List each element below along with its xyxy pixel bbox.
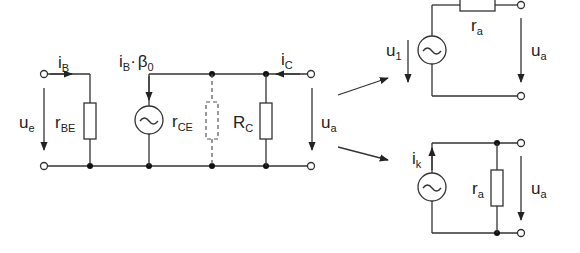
resistor-rce-dashed [206, 102, 218, 139]
voltage-source-equivalent: u1 ra ua [386, 0, 547, 100]
label-ra-top: ra [471, 16, 484, 37]
label-current-source: iB·β0 [119, 52, 154, 73]
resistor-rbe [84, 103, 96, 139]
current-source-equivalent: ik ra ua [412, 140, 547, 237]
output-terminal-bottom [308, 163, 315, 170]
label-ue: ue [19, 113, 35, 134]
label-ik: ik [412, 149, 422, 170]
label-rbe: rBE [55, 113, 75, 134]
label-ic: iC [281, 50, 293, 71]
resistor-ra-series [460, 0, 495, 11]
arrow-to-voltage-equivalent [338, 78, 388, 95]
label-ra-bottom: ra [472, 179, 485, 200]
main-circuit: iB ue rBE iB·β0 rCE RC iC ua [19, 50, 337, 170]
resistor-rc [260, 103, 272, 139]
output-terminal-top [308, 71, 315, 78]
label-ua-top: ua [531, 41, 547, 62]
arrow-to-current-equivalent [338, 147, 388, 160]
label-ib: iB [58, 53, 69, 74]
label-ua-bottom: ua [531, 179, 547, 200]
input-terminal-bottom [41, 163, 48, 170]
label-u1: u1 [386, 41, 402, 62]
label-ua: ua [321, 113, 337, 134]
input-terminal-top [41, 71, 48, 78]
resistor-ra-parallel [491, 170, 503, 206]
label-rc: RC [233, 113, 253, 134]
label-rce: rCE [172, 112, 193, 133]
transistor-small-signal-equivalent-diagram: iB ue rBE iB·β0 rCE RC iC ua u1 ra ua [0, 0, 580, 253]
